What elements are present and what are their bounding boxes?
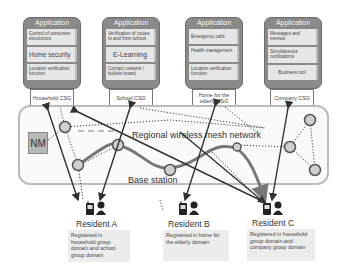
person-icon — [98, 202, 105, 209]
person-icon — [191, 202, 198, 209]
mesh-node — [165, 165, 176, 176]
mesh-node — [310, 165, 321, 176]
resident-b-label: Resident B — [168, 219, 210, 229]
resident-a-label: Resident A — [76, 219, 117, 229]
person-icon — [275, 202, 282, 209]
mesh-node — [285, 142, 296, 153]
mesh-node — [73, 160, 84, 171]
resident-b-devices — [178, 201, 202, 219]
resident-c-devices — [262, 201, 286, 219]
resident-c-label: Resident C — [252, 218, 294, 228]
resident-a-note: Registered in household group domain and… — [68, 230, 130, 262]
mesh-node — [60, 122, 71, 133]
resident-a-devices — [85, 201, 109, 219]
resident-c-note: Registered in household group domain and… — [247, 229, 315, 261]
resident-b-note: Registered in home for the elderly domai… — [163, 230, 229, 261]
mesh-node — [233, 143, 241, 151]
mesh-node — [305, 115, 316, 126]
arrows — [48, 106, 288, 203]
